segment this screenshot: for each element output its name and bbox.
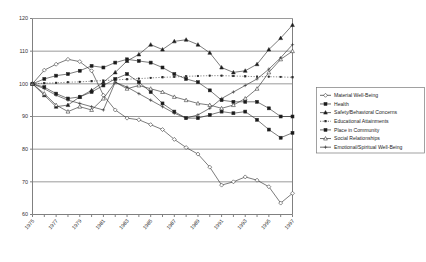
chart-canvas: 60708090100110120 1975197719791981198319… <box>0 0 426 262</box>
series-marker <box>291 115 294 118</box>
series-marker <box>256 76 258 78</box>
series-marker <box>243 69 247 73</box>
series-marker <box>232 112 235 115</box>
series-marker <box>126 79 128 81</box>
series-marker <box>162 77 164 79</box>
series-marker <box>79 81 81 83</box>
series-marker <box>102 84 105 87</box>
series-marker <box>149 98 152 101</box>
series-marker <box>114 61 117 64</box>
y-tick-label-110: 110 <box>19 48 28 54</box>
y-axis-tick-labels: 60708090100110120 <box>19 15 28 217</box>
series-marker <box>173 73 176 76</box>
series-marker <box>90 64 93 67</box>
legend-label: Place in Community <box>334 127 380 133</box>
series-marker <box>103 80 105 82</box>
series-1 <box>31 58 294 118</box>
y-tick-label-120: 120 <box>19 15 28 21</box>
chart-root: 60708090100110120 1975197719791981198319… <box>0 0 426 262</box>
series-marker <box>231 180 235 184</box>
series-marker <box>221 75 223 77</box>
legend-label: Educational Attainments <box>334 118 389 124</box>
series-marker <box>149 61 152 64</box>
legend-swatch-marker <box>324 128 327 131</box>
grid-lines <box>33 19 293 182</box>
series-marker <box>208 113 211 116</box>
x-axis-tick-labels: 1975197719791981198319851987198919911993… <box>23 218 295 231</box>
series-marker <box>161 66 164 69</box>
x-tick-label-1993: 1993 <box>236 218 248 231</box>
series-marker <box>90 91 93 94</box>
series-6 <box>31 43 294 120</box>
series-marker <box>174 76 176 78</box>
series-marker <box>220 110 223 113</box>
series-marker <box>220 183 224 187</box>
y-tick-label-80: 80 <box>22 146 28 152</box>
y-tick-label-60: 60 <box>22 211 28 217</box>
series-marker <box>66 103 70 107</box>
series-marker <box>244 110 247 113</box>
series-marker <box>161 105 164 108</box>
series-marker <box>137 59 140 62</box>
x-tick-label-1977: 1977 <box>47 218 59 231</box>
series-marker <box>292 77 294 79</box>
x-tick-label-1989: 1989 <box>189 218 201 231</box>
series-marker <box>78 102 81 105</box>
series-marker <box>149 91 152 94</box>
series-marker <box>54 62 58 66</box>
x-tick-label-1985: 1985 <box>141 218 153 231</box>
series-marker <box>78 69 81 72</box>
series-marker <box>267 185 271 189</box>
x-tick-label-1983: 1983 <box>118 218 130 231</box>
legend-swatch-marker <box>325 121 327 123</box>
series-marker <box>244 100 247 103</box>
series-marker <box>185 77 188 80</box>
series-0 <box>31 57 295 205</box>
series-marker <box>256 100 259 103</box>
series-marker <box>91 80 93 82</box>
legend-label: Material Well-Being <box>334 92 378 98</box>
series-marker <box>279 115 282 118</box>
series-marker <box>280 76 282 78</box>
series-marker <box>233 75 235 77</box>
series-marker <box>244 76 246 78</box>
series-marker <box>291 23 295 27</box>
series-marker <box>267 128 270 131</box>
legend-label: Safety/Behavioral Concerns <box>334 109 398 115</box>
x-tick-label-1997: 1997 <box>283 218 295 231</box>
legend-label: Social Relationships <box>334 135 380 141</box>
series-marker <box>55 82 57 84</box>
y-tick-label-100: 100 <box>19 81 28 87</box>
series-marker <box>126 73 129 76</box>
series-marker <box>150 77 152 79</box>
x-tick-label-1991: 1991 <box>212 218 224 231</box>
legend-swatch-marker <box>324 102 327 105</box>
series-3 <box>32 75 294 85</box>
series-lines <box>31 23 295 205</box>
series-marker <box>256 118 259 121</box>
series-marker <box>185 76 187 78</box>
series-marker <box>102 108 105 111</box>
y-tick-label-90: 90 <box>22 113 28 119</box>
series-marker <box>44 82 46 84</box>
series-marker <box>138 78 140 80</box>
series-marker <box>279 136 282 139</box>
series-marker <box>102 66 105 69</box>
series-marker <box>161 102 164 105</box>
series-2 <box>31 23 295 108</box>
series-marker <box>208 89 211 92</box>
legend-label: Emotional/Spiritual Well-Being <box>334 144 403 150</box>
series-marker <box>232 103 236 107</box>
series-marker <box>232 90 235 93</box>
series-marker <box>78 95 81 98</box>
x-tick-label-1979: 1979 <box>71 218 83 231</box>
series-marker <box>66 73 69 76</box>
series-marker <box>55 74 58 77</box>
legend-label: Health <box>334 101 349 107</box>
series-marker <box>268 76 270 78</box>
series-marker <box>137 118 141 122</box>
line-chart: 60708090100110120 1975197719791981198319… <box>0 0 426 262</box>
series-marker <box>196 117 199 120</box>
series-marker <box>291 131 294 134</box>
x-tick-label-1981: 1981 <box>94 218 106 231</box>
